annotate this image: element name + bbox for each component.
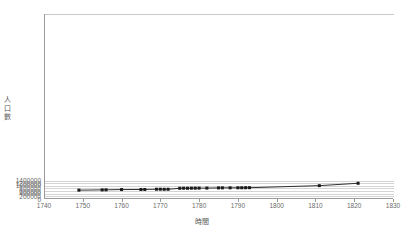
data-point-marker [167,188,170,191]
data-point-marker [101,188,104,191]
data-point-marker [194,187,197,190]
x-tick-mark [393,199,394,202]
data-point-marker [217,186,220,189]
data-point-marker [357,182,360,185]
x-axis-title: 時間 [0,217,403,226]
data-point-marker [236,186,239,189]
data-point-marker [155,188,158,191]
x-tick-mark [315,199,316,202]
x-tick-label: 1790 [222,202,254,210]
x-tick-label: 1820 [338,202,370,210]
data-point-marker [221,186,224,189]
data-point-marker [229,186,232,189]
data-point-marker [178,187,181,190]
population-line-chart: 0200000400000600000800000100000012000001… [0,0,403,232]
x-tick-mark [199,199,200,202]
series-layer [0,0,403,232]
data-point-marker [205,187,208,190]
data-point-marker [120,188,123,191]
data-point-marker [163,188,166,191]
data-point-marker [143,188,146,191]
data-point-marker [182,187,185,190]
x-tick-label: 1770 [144,202,176,210]
x-tick-mark [238,199,239,202]
x-tick-mark [277,199,278,202]
x-tick-mark [122,199,123,202]
data-point-marker [244,186,247,189]
x-tick-label: 1750 [67,202,99,210]
x-tick-label: 1780 [183,202,215,210]
data-point-marker [318,184,321,187]
data-point-marker [190,187,193,190]
x-tick-mark [83,199,84,202]
x-tick-label: 1810 [299,202,331,210]
x-tick-label: 1800 [261,202,293,210]
x-tick-label: 1830 [377,202,403,210]
x-tick-mark [354,199,355,202]
data-point-marker [248,186,251,189]
data-point-marker [105,188,108,191]
data-point-marker [240,186,243,189]
x-tick-label: 1740 [28,202,60,210]
x-tick-mark [160,199,161,202]
data-point-marker [77,189,80,192]
data-point-marker [139,188,142,191]
data-point-marker [186,187,189,190]
x-tick-label: 1760 [106,202,138,210]
data-point-marker [198,187,201,190]
data-point-marker [159,188,162,191]
x-axis-tick-labels: 1740175017601770178017901800181018201830 [0,202,403,214]
